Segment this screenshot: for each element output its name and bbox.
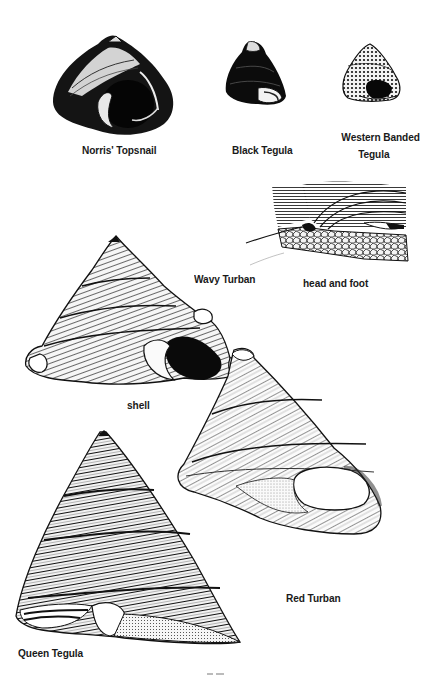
wavy-turban-head-and-foot-illustration: [244, 183, 412, 265]
black-tegula-illustration: [222, 38, 288, 108]
head-and-foot-drawing: [244, 183, 412, 265]
black-tegula-drawing: [222, 38, 288, 108]
queen-tegula-label: Queen Tegula: [18, 645, 83, 662]
head-and-foot-label: head and foot: [303, 275, 368, 292]
norris-topsnail-illustration: [48, 30, 178, 138]
western-banded-tegula-illustration: [338, 42, 404, 104]
red-turban-label: Red Turban: [286, 590, 341, 607]
queen-tegula-illustration: [14, 430, 242, 652]
shell-label: shell: [127, 397, 150, 414]
norris-topsnail-drawing: [48, 30, 178, 138]
norris-topsnail-label: Norris' Topsnail: [82, 142, 156, 159]
black-tegula-label: Black Tegula: [232, 142, 293, 159]
western-banded-tegula-label-line1: Western Banded: [341, 129, 419, 146]
queen-tegula-drawing: [14, 430, 242, 652]
page-number-fragment: [207, 673, 229, 677]
western-banded-tegula-label-line2: Tegula: [358, 146, 389, 163]
western-banded-tegula-drawing: [338, 42, 404, 104]
